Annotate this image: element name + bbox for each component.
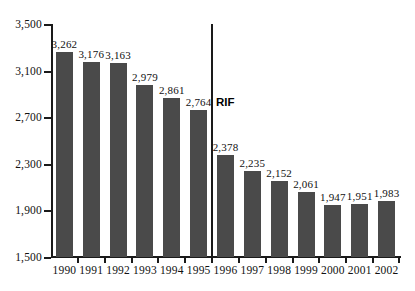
x-axis-tick-mark xyxy=(211,257,213,263)
y-axis-tick-mark xyxy=(44,117,51,119)
bar: 2,8611994 xyxy=(163,98,180,257)
x-axis-tick-mark xyxy=(372,257,374,263)
y-axis-tick-label: 3,100 xyxy=(15,65,42,77)
x-axis-category-label: 2001 xyxy=(348,264,372,276)
bar: 3,1631992 xyxy=(110,63,127,257)
bar-value-label: 2,979 xyxy=(132,71,158,83)
x-axis-category-label: 1995 xyxy=(187,264,211,276)
bar: 3,1761991 xyxy=(83,62,100,257)
bar-value-label: 3,163 xyxy=(105,49,131,61)
x-axis-category-label: 1992 xyxy=(106,264,130,276)
bar: 2,2351997 xyxy=(244,171,261,257)
x-axis-category-label: 1999 xyxy=(294,264,318,276)
x-axis-category-label: 1990 xyxy=(53,264,77,276)
bar: 2,3781996 xyxy=(217,155,234,257)
x-axis-category-label: 1993 xyxy=(133,264,157,276)
y-axis-tick-mark xyxy=(44,71,51,73)
bar: 2,9791993 xyxy=(136,85,153,257)
bar: 2,1521998 xyxy=(271,181,288,257)
x-axis-tick-mark xyxy=(398,257,400,263)
bar: 2,7641995 xyxy=(190,110,207,257)
plot-area: 1,5001,9002,3002,7003,1003,500 3,2621990… xyxy=(51,24,400,257)
x-axis-tick-mark xyxy=(157,257,159,263)
x-axis-category-label: 1998 xyxy=(267,264,291,276)
bar-value-label: 2,378 xyxy=(213,141,239,153)
bar-value-label: 2,152 xyxy=(266,167,292,179)
x-axis-category-label: 1994 xyxy=(160,264,184,276)
y-axis-tick-mark xyxy=(44,257,51,259)
y-axis-tick-mark xyxy=(44,164,51,166)
x-axis-tick-mark xyxy=(77,257,79,263)
bar-value-label: 1,951 xyxy=(347,190,373,202)
bar-value-label: 2,061 xyxy=(293,178,319,190)
y-axis-tick-mark xyxy=(44,24,51,26)
y-axis-tick-label: 1,500 xyxy=(15,251,42,263)
bar-value-label: 2,764 xyxy=(186,96,212,108)
y-axis-tick-mark xyxy=(44,210,51,212)
bar: 1,9832002 xyxy=(378,201,395,257)
bar-value-label: 1,947 xyxy=(320,191,346,203)
x-axis-tick-mark xyxy=(131,257,133,263)
x-axis-category-label: 2000 xyxy=(321,264,345,276)
x-axis-tick-mark xyxy=(318,257,320,263)
y-axis-tick-label: 1,900 xyxy=(15,204,42,216)
rif-divider-line xyxy=(211,24,213,257)
bar-value-label: 3,262 xyxy=(52,38,78,50)
bar-value-label: 1,983 xyxy=(374,187,400,199)
x-axis-tick-mark xyxy=(238,257,240,263)
bar: 3,2621990 xyxy=(56,52,73,257)
x-axis-tick-mark xyxy=(292,257,294,263)
y-axis-tick-label: 3,500 xyxy=(15,18,42,30)
bar-value-label: 3,176 xyxy=(78,48,104,60)
y-axis-tick-label: 2,300 xyxy=(15,158,42,170)
x-axis-category-label: 1996 xyxy=(214,264,238,276)
bar-value-label: 2,861 xyxy=(159,84,185,96)
bar: 1,9512001 xyxy=(351,204,368,257)
x-axis-tick-mark xyxy=(345,257,347,263)
x-axis-category-label: 2002 xyxy=(375,264,399,276)
x-axis-tick-mark xyxy=(184,257,186,263)
bar: 1,9472000 xyxy=(324,205,341,257)
y-axis-tick-label: 2,700 xyxy=(15,111,42,123)
x-axis-category-label: 1991 xyxy=(79,264,103,276)
bar-value-label: 2,235 xyxy=(239,157,265,169)
x-axis-category-label: 1997 xyxy=(240,264,264,276)
bar-chart-figure: 1,5001,9002,3002,7003,1003,500 3,2621990… xyxy=(0,0,415,291)
rif-annotation-label: RIF xyxy=(216,96,235,108)
x-axis-tick-mark xyxy=(265,257,267,263)
bar: 2,0611999 xyxy=(298,192,315,257)
x-axis-tick-mark xyxy=(104,257,106,263)
